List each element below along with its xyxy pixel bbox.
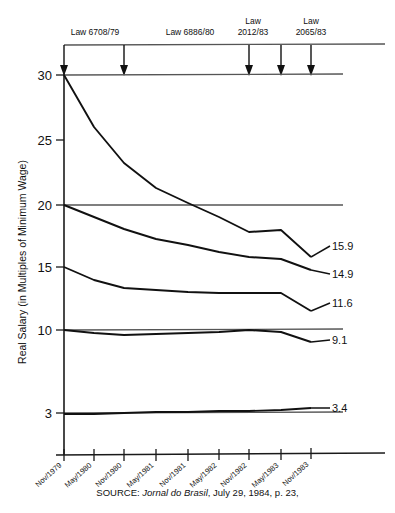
series-line-30	[64, 75, 311, 257]
x-tick-label-7: May/1983	[250, 461, 280, 490]
law-arrow-4	[277, 45, 285, 76]
x-tick-label-3: May/1981	[125, 461, 155, 490]
law-label-2: Law 6886/80	[166, 27, 215, 37]
law-label-4-line2: 2065/83	[296, 27, 327, 37]
x-tick-label-8: Nov/1983	[280, 460, 310, 488]
x-tick-label-2: Nov/1980	[93, 461, 123, 489]
endpoint-labels-group: 15.9 14.9 11.6 9.1 3.4	[311, 240, 353, 414]
law-arrow-3	[245, 45, 253, 76]
y-tick-label-15: 15	[38, 260, 52, 275]
x-tick-label-4: Nov/1981	[157, 461, 187, 489]
chart-figure: Law 6708/79 Law 6886/80 Law 2012/83 Law …	[0, 0, 395, 513]
law-label-3-line2: 2012/83	[238, 27, 269, 37]
x-axis	[56, 453, 385, 455]
y-tick-label-10: 10	[38, 323, 52, 338]
law-arrow-2	[120, 45, 128, 76]
x-tick-label-1: May/1980	[63, 461, 93, 490]
x-tick-label-5: May/1982	[188, 461, 218, 490]
reference-rule-10	[64, 329, 343, 330]
law-label-1: Law 6708/79	[71, 27, 120, 37]
x-tick-label-6: Nov/1982	[218, 461, 248, 489]
series-line-20	[64, 205, 311, 270]
source-journal: Jornal do Brasil	[142, 487, 207, 498]
y-ticks-group: 30 25 20 15 10 3	[38, 68, 64, 421]
y-tick-label-3: 3	[45, 406, 52, 421]
endpoint-label-3-4: 3.4	[332, 402, 347, 414]
law-label-4-line1: Law	[303, 16, 319, 26]
law-label-3-line1: Law	[245, 16, 261, 26]
source-caption: SOURCE: Jornal do Brasil, July 29, 1984,…	[0, 487, 395, 498]
reference-rule-30	[64, 74, 343, 75]
y-tick-label-25: 25	[38, 133, 52, 148]
y-axis-title: Real Salary (in Multiples of Minimum Wag…	[16, 160, 28, 364]
axes-group	[56, 68, 385, 455]
timeline-bar	[64, 44, 385, 45]
y-tick-label-20: 20	[38, 198, 52, 213]
endpoint-label-14-9: 14.9	[332, 268, 353, 280]
endpoint-label-11-6: 11.6	[332, 297, 353, 309]
endpoint-label-15-9: 15.9	[332, 240, 353, 252]
series-line-15	[64, 267, 311, 311]
series-line-10	[64, 330, 311, 342]
source-prefix: SOURCE:	[96, 487, 139, 498]
y-tick-label-30: 30	[38, 68, 52, 83]
law-arrow-5	[307, 45, 315, 76]
reference-rules-group	[64, 74, 343, 413]
source-suffix: , July 29, 1984, p. 23,	[208, 487, 299, 498]
law-timeline-group: Law 6708/79 Law 6886/80 Law 2012/83 Law …	[60, 16, 385, 76]
line-chart-svg: Law 6708/79 Law 6886/80 Law 2012/83 Law …	[0, 0, 395, 513]
x-tick-label-0: Nov/1979	[33, 461, 63, 489]
endpoint-label-9-1: 9.1	[332, 334, 347, 346]
